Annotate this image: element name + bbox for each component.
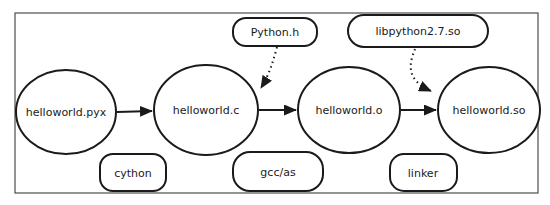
node-label-helloworld-pyx: helloworld.pyx [26,106,107,119]
build-pipeline-diagram: helloworld.pyx helloworld.c helloworld.o… [0,0,550,205]
input-box-pythonh: Python.h [233,18,317,46]
dotted-arrow-libpython-to-so [411,49,431,91]
tool-label-gcc-as: gcc/as [260,166,296,179]
node-label-helloworld-o: helloworld.o [315,104,382,117]
tool-label-cython: cython [114,167,152,180]
dotted-arrow-pythonh-to-c [261,47,277,88]
diagram-canvas: helloworld.pyx helloworld.c helloworld.o… [0,0,550,205]
tool-box-linker: linker [390,154,457,191]
input-label-pythonh: Python.h [251,26,300,39]
node-helloworld-o: helloworld.o [298,67,400,153]
tool-label-linker: linker [408,167,439,180]
node-helloworld-pyx: helloworld.pyx [16,70,116,154]
node-label-helloworld-c: helloworld.c [173,104,239,117]
tool-box-gcc-as: gcc/as [233,152,323,191]
arrow-pyx-to-c [117,111,152,112]
input-box-libpython: libpython2.7.so [348,15,488,47]
node-helloworld-so: helloworld.so [438,67,540,153]
input-label-libpython: libpython2.7.so [375,25,460,38]
node-label-helloworld-so: helloworld.so [453,104,526,117]
tool-box-cython: cython [100,154,166,191]
node-helloworld-c: helloworld.c [154,65,258,155]
